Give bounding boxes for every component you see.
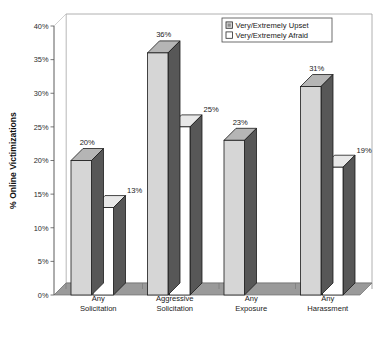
legend-item[interactable]: Very/Extremely Afraid [226,31,308,40]
x-axis-category-label: Solicitation [156,304,193,313]
bar-side-face [190,115,202,295]
legend: Very/Extremely UpsetVery/Extremely Afrai… [222,18,332,42]
legend-swatch-inner [228,34,231,37]
x-axis-category-label: Aggressive [156,294,194,303]
y-axis-tick-label: 30% [34,89,49,98]
legend-item[interactable]: Very/Extremely Upset [226,21,309,30]
y-axis-tick-label: 15% [34,190,49,199]
y-axis-tick-label: 35% [34,55,49,64]
bar-side-face [168,41,180,295]
bar-front-face [301,87,322,295]
bar-front-face [148,53,169,295]
y-axis-tick-label: 0% [38,291,49,300]
bar-upset [301,75,334,295]
bar-side-face [321,75,333,295]
y-axis-title: % Online Victimizations [8,112,18,209]
y-axis: 0%5%10%15%20%25%30%35%40% [34,22,54,300]
x-axis-category-label: Harassment [307,304,349,313]
y-axis-tick-label: 20% [34,156,49,165]
y-axis-tick-label: 40% [34,22,49,31]
x-axis-category-label: Any [321,294,334,303]
bar-value-label: 19% [357,146,372,155]
bar-front-face [224,140,245,295]
bar-value-label: 31% [309,64,324,73]
bar-value-label: 20% [80,138,95,147]
y-axis-tick-label: 5% [38,257,49,266]
x-axis-category-label: Any [245,294,258,303]
bar-chart: 0%5%10%15%20%25%30%35%40%% Online Victim… [0,0,391,344]
bar-value-label: 25% [204,105,219,114]
x-axis-category-label: Exposure [235,304,267,313]
bar-upset [224,128,257,295]
y-axis-tick-label: 25% [34,123,49,132]
bar-side-face [114,196,126,295]
x-axis-category-label: Any [92,294,105,303]
legend-label: Very/Extremely Upset [236,21,310,30]
bar-front-face [71,161,92,296]
bar-side-face [343,155,355,295]
bar-upset [148,41,181,295]
y-axis-tick-label: 10% [34,224,49,233]
bar-side-face [92,149,104,296]
bar-upset [71,149,104,296]
plot-left-wall [54,14,66,295]
bar-side-face [245,128,257,295]
bar-value-label: 23% [233,118,248,127]
y-axis-title-text: % Online Victimizations [8,112,18,209]
chart-container: 0%5%10%15%20%25%30%35%40%% Online Victim… [0,0,391,344]
legend-swatch-inner [228,24,231,27]
legend-label: Very/Extremely Afraid [236,31,309,40]
bar-value-label: 13% [127,186,142,195]
bar-value-label: 36% [156,30,171,39]
x-axis-category-label: Solicitation [80,304,117,313]
